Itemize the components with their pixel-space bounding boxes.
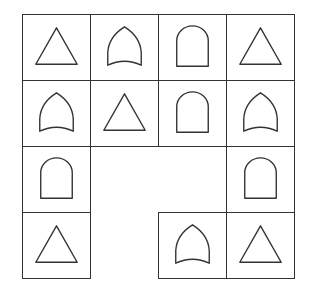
grid-cell-r3c2 [158, 212, 227, 279]
triangle-icon [23, 15, 90, 80]
grid-cell-r1c1 [90, 80, 159, 147]
round-arch-icon [227, 147, 294, 212]
round-arch-icon [159, 81, 226, 146]
triangle-icon [227, 213, 294, 278]
grid-cell-r2c3 [226, 146, 295, 213]
triangle-icon [23, 213, 90, 278]
triangle-icon [227, 15, 294, 80]
grid-cell-r0c3 [226, 14, 295, 81]
grid-cell-r3c3 [226, 212, 295, 279]
pointed-arch-icon [91, 15, 158, 80]
round-arch-icon [159, 15, 226, 80]
grid-cell-r2c0 [22, 146, 91, 213]
grid-cell-r1c2 [158, 80, 227, 147]
pointed-arch-icon [23, 81, 90, 146]
grid-cell-r3c0 [22, 212, 91, 279]
grid-cell-r1c0 [22, 80, 91, 147]
triangle-icon [91, 81, 158, 146]
round-arch-icon [23, 147, 90, 212]
grid-cell-r0c1 [90, 14, 159, 81]
pointed-arch-icon [227, 81, 294, 146]
grid-cell-r1c3 [226, 80, 295, 147]
grid-cell-r0c2 [158, 14, 227, 81]
pointed-arch-icon [159, 213, 226, 278]
grid-cell-r0c0 [22, 14, 91, 81]
